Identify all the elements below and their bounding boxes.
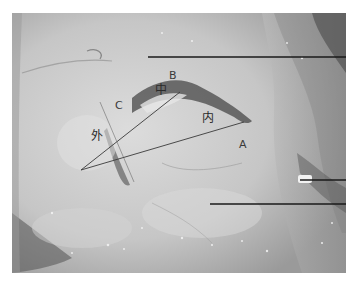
tissue-image bbox=[12, 13, 346, 273]
label-middle: 中 bbox=[155, 84, 167, 96]
label-c: C bbox=[115, 100, 123, 111]
label-inner: 内 bbox=[202, 112, 214, 124]
label-b: B bbox=[169, 70, 177, 81]
label-outer: 外 bbox=[91, 130, 103, 142]
anatomical-photo bbox=[12, 13, 346, 273]
label-a: A bbox=[239, 139, 247, 150]
